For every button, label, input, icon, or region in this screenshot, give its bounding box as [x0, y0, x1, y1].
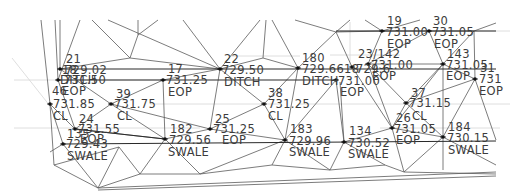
point-marker-icon — [109, 102, 113, 106]
point-label: DITCH — [224, 75, 261, 89]
survey-tin-drawing: 21729.02DITCH731.5018EOP46731.85CL39731.… — [0, 0, 511, 193]
point-label: 46 — [52, 84, 67, 98]
point-label: SWALE — [448, 143, 489, 157]
point-label: EOP — [446, 69, 470, 83]
point-marker-icon — [380, 29, 384, 33]
point-marker-icon — [208, 127, 212, 131]
point-label: CL — [268, 109, 283, 123]
point-marker-icon — [283, 138, 287, 142]
point-label: SWALE — [289, 145, 330, 159]
point-label: SWALE — [348, 147, 389, 161]
point-label: EOP — [372, 69, 396, 83]
point-marker-icon — [441, 62, 445, 66]
point-marker-icon — [473, 77, 477, 81]
point-label: SWALE — [67, 149, 108, 163]
point-label: DITCH — [302, 74, 339, 88]
point-label: EOP — [387, 37, 411, 51]
point-label: EOP — [168, 85, 192, 99]
point-marker-icon — [163, 137, 167, 141]
point-marker-icon — [161, 78, 165, 82]
point-label: CL — [53, 109, 68, 123]
point-label: EOP — [396, 133, 420, 147]
point-marker-icon — [441, 135, 445, 139]
point-label: EOP — [340, 85, 364, 99]
point-label: EOP — [222, 133, 246, 147]
point-label: 731.15 — [409, 96, 451, 110]
point-marker-icon — [61, 142, 65, 146]
point-marker-icon — [342, 140, 346, 144]
point-marker-icon — [404, 101, 408, 105]
point-label: CL — [412, 109, 427, 123]
point-marker-icon — [48, 102, 52, 106]
point-label: CL — [117, 109, 132, 123]
point-marker-icon — [262, 102, 266, 106]
survey-point-labels: 21729.02DITCH731.5018EOP46731.85CL39731.… — [52, 14, 503, 163]
point-label: EOP — [479, 84, 503, 98]
point-marker-icon — [296, 66, 300, 70]
point-label: SWALE — [168, 145, 209, 159]
point-label: 18 — [62, 63, 77, 77]
